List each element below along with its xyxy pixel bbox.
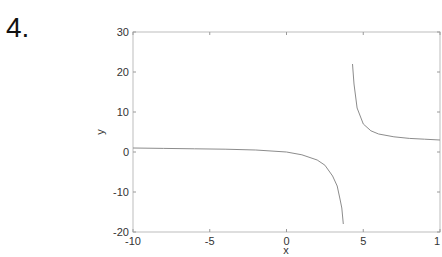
- x-tick-label: 5: [360, 235, 366, 247]
- y-tick-label: -10: [113, 186, 129, 198]
- x-tick-label: 1: [434, 235, 440, 247]
- y-tick-label: 30: [117, 26, 129, 38]
- x-tick-label: -5: [205, 235, 215, 247]
- x-axis-label: x: [283, 244, 289, 256]
- plot-frame: [133, 32, 440, 232]
- y-tick-label: 20: [117, 66, 129, 78]
- y-tick-label: -20: [113, 226, 129, 238]
- y-axis-label: y: [94, 129, 106, 135]
- y-tick-label: 10: [117, 106, 129, 118]
- line-chart: -10-5051-20-100102030 x y: [0, 0, 442, 257]
- y-tick-label: 0: [123, 146, 129, 158]
